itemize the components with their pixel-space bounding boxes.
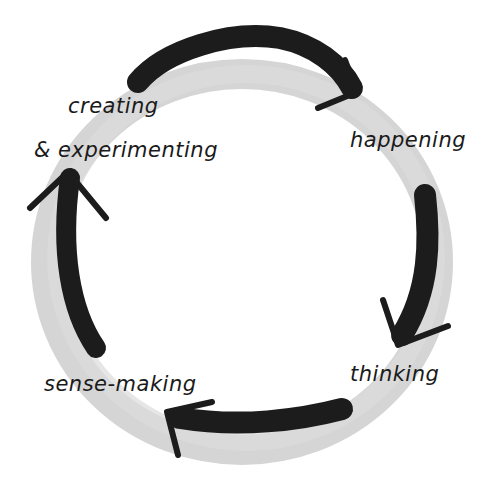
node-label-thinking: thinking — [350, 364, 439, 385]
node-label-experimenting: & experimenting — [34, 140, 218, 161]
node-label-sense-making: sense-making — [44, 374, 197, 395]
cycle-graphic — [0, 0, 497, 483]
node-label-happening: happening — [350, 130, 466, 151]
cycle-diagram: creating & experimenting happening think… — [0, 0, 497, 483]
node-label-creating: creating — [68, 96, 159, 117]
